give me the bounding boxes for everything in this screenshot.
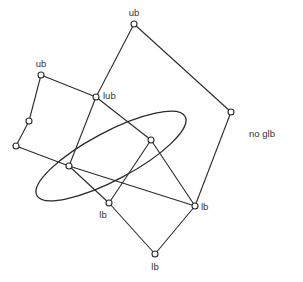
label-lb-left: lb [99, 209, 106, 220]
edge-right-lb_right [195, 112, 231, 206]
edge-left_mid-left_low [16, 121, 29, 146]
edge-lub-inner [96, 97, 151, 140]
edge-lub-center [69, 97, 96, 166]
label-lub: lub [103, 90, 116, 101]
edge-ub_left-left_mid [29, 75, 41, 121]
node-lb_right [192, 203, 198, 209]
edge-ub_top-right [134, 24, 231, 112]
label-ub-top: ub [129, 7, 140, 18]
node-left_low [13, 143, 19, 149]
lattice-diagram: ub ub lub lb lb lb no glb [0, 0, 303, 282]
node-inner [148, 137, 154, 143]
node-right [228, 109, 234, 115]
edge-lb_left-lb_bottom [109, 203, 155, 254]
edges [16, 24, 231, 254]
node-ub_top [131, 21, 137, 27]
node-center [66, 163, 72, 169]
label-lb-bottom: lb [151, 261, 158, 272]
edge-inner-lb_right [151, 140, 195, 206]
edge-left_low-center [16, 146, 69, 166]
node-left_mid [26, 118, 32, 124]
edge-lb_right-lb_bottom [155, 206, 195, 254]
nodes [13, 21, 234, 257]
edge-ub_left-lub [41, 75, 96, 97]
label-ub-left: ub [36, 58, 47, 69]
node-lub [93, 94, 99, 100]
edge-inner-lb_left [109, 140, 151, 203]
node-lb_left [106, 200, 112, 206]
edge-ub_top-lub [96, 24, 134, 97]
label-lb-right: lb [201, 201, 208, 212]
node-lb_bottom [152, 251, 158, 257]
label-no-glb: no glb [249, 128, 275, 139]
node-ub_left [38, 72, 44, 78]
